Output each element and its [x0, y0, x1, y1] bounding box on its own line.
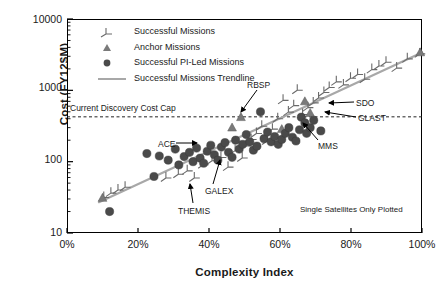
annotation-themis: THEMIS	[178, 206, 210, 216]
legend-label-2: Successful PI-Led Missions	[134, 57, 244, 67]
chart-plot-svg	[0, 0, 443, 290]
annotation-glast: GLAST	[358, 113, 386, 123]
legend-item-pi-led-missions: Successful PI-Led Missions	[96, 56, 130, 72]
annotation-ace: ACE	[158, 139, 175, 149]
annotation-sdo: SDO	[356, 98, 374, 108]
chart-legend: Successful Missions Anchor Missions Succ…	[96, 25, 130, 87]
trendline-marker-icon	[96, 72, 130, 86]
legend-item-anchor-missions: Anchor Missions	[96, 41, 130, 57]
annotation-rbsp: RBSP	[247, 80, 270, 90]
hook-marker-icon	[96, 25, 130, 39]
annotation-galex: GALEX	[205, 186, 233, 196]
annotation-mms: MMS	[318, 141, 338, 151]
legend-item-successful-missions: Successful Missions	[96, 25, 130, 41]
legend-item-trendline: Successful Missions Trendline	[96, 72, 130, 88]
legend-label-3: Successful Missions Trendline	[134, 73, 255, 83]
chart-note: Single Satellites Only Plotted	[300, 205, 403, 214]
triangle-marker-icon	[96, 41, 130, 55]
cost-cap-label: Current Discovery Cost Cap	[70, 103, 176, 113]
circle-marker-icon	[96, 56, 130, 70]
chart-container: 10000 1000 100 10 Cost (FY12$M) 0% 20% 4…	[0, 0, 443, 290]
legend-label-0: Successful Missions	[134, 26, 215, 36]
legend-label-1: Anchor Missions	[134, 42, 200, 52]
